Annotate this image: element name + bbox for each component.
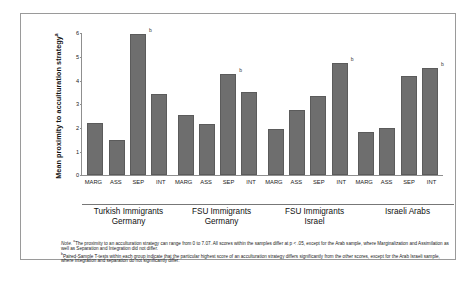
y-axis-title: Mean proximity to acculturation strategy…: [49, 26, 63, 186]
bar-int[interactable]: [422, 68, 438, 175]
bar-ass[interactable]: [109, 140, 125, 175]
bar-slot-marg: [358, 34, 374, 175]
x-label-marg: MARG: [173, 179, 195, 186]
note-text-a: The proximity to an acculturation strate…: [61, 241, 449, 251]
group-name-line2: Israel: [268, 217, 361, 227]
bar-sep[interactable]: [401, 76, 417, 175]
bar-sep[interactable]: [310, 96, 326, 175]
x-label-marg: MARG: [263, 179, 285, 186]
bar-group-2: b: [172, 34, 262, 175]
bar-int[interactable]: [241, 92, 257, 175]
y-tick-1: 1: [69, 150, 79, 156]
bar-slot-sep: b: [130, 34, 146, 175]
group-name-4: Israeli Arabs: [361, 207, 454, 226]
band-names: Turkish ImmigrantsGermanyFSU ImmigrantsG…: [82, 207, 454, 226]
x-label-group-2: MARGASSSEPINT: [172, 177, 262, 198]
y-tick-2: 2: [69, 126, 79, 132]
bar-slot-ass: [199, 34, 215, 175]
x-label-group-4: MARGASSSEPINT: [353, 177, 443, 198]
group-name-line1: Turkish Immigrants: [82, 207, 175, 217]
x-label-ass: ASS: [376, 179, 398, 186]
bar-slot-ass: [109, 34, 125, 175]
bar-slot-int: b: [422, 34, 438, 175]
x-label-group-1: MARGASSSEPINT: [82, 177, 172, 198]
group-name-line1: FSU Immigrants: [268, 207, 361, 217]
bar-marg[interactable]: [178, 115, 194, 175]
bar-slot-sep: b: [220, 34, 236, 175]
note-paragraph-a: Note. aThe proximity to an acculturation…: [61, 239, 453, 251]
bar-slot-marg: [178, 34, 194, 175]
group-name-line1: Israeli Arabs: [361, 207, 454, 217]
bar-groups: bbbb: [82, 34, 443, 175]
band-rule: [82, 204, 454, 205]
group-name-band: Turkish ImmigrantsGermanyFSU ImmigrantsG…: [82, 204, 454, 234]
x-label-group-3: MARGASSSEPINT: [263, 177, 353, 198]
bar-slot-int: [241, 34, 257, 175]
significance-marker: b: [441, 62, 444, 67]
group-name-line1: FSU Immigrants: [175, 207, 268, 217]
figure-page: Mean proximity to acculturation strategy…: [0, 0, 476, 285]
bar-group-4: b: [353, 34, 443, 175]
bar-marg[interactable]: [268, 129, 284, 175]
bar-ass[interactable]: [289, 110, 305, 175]
x-axis-category-labels: MARGASSSEPINTMARGASSSEPINTMARGASSSEPINTM…: [82, 177, 443, 198]
y-tick-0: 0: [69, 173, 79, 179]
x-label-ass: ASS: [105, 179, 127, 186]
bar-sep[interactable]: [130, 34, 146, 175]
x-label-int: INT: [330, 179, 352, 186]
bar-slot-marg: [87, 34, 103, 175]
y-tick-4: 4: [69, 79, 79, 85]
group-name-2: FSU ImmigrantsGermany: [175, 207, 268, 226]
group-name-1: Turkish ImmigrantsGermany: [82, 207, 175, 226]
y-tick-5: 5: [69, 55, 79, 61]
bar-slot-ass: [289, 34, 305, 175]
bar-int[interactable]: [332, 63, 348, 175]
x-label-sep: SEP: [127, 179, 149, 186]
group-name-3: FSU ImmigrantsIsrael: [268, 207, 361, 226]
bar-slot-sep: [401, 34, 417, 175]
bar-group-1: b: [82, 34, 172, 175]
x-label-int: INT: [240, 179, 262, 186]
x-label-int: INT: [150, 179, 172, 186]
note-paragraph-b: bPaired-Sample T-tests within each group…: [61, 252, 453, 264]
x-label-sep: SEP: [398, 179, 420, 186]
bar-marg[interactable]: [358, 132, 374, 175]
bar-sep[interactable]: [220, 74, 236, 175]
bar-ass[interactable]: [199, 124, 215, 175]
bar-int[interactable]: [151, 94, 167, 175]
x-label-ass: ASS: [285, 179, 307, 186]
bar-slot-marg: [268, 34, 284, 175]
plot-area: Mean proximity to acculturation strategy…: [43, 28, 443, 198]
y-axis-title-superscript: a: [53, 33, 59, 36]
bar-ass[interactable]: [379, 128, 395, 175]
significance-marker: b: [149, 28, 152, 33]
x-label-int: INT: [421, 179, 443, 186]
bar-marg[interactable]: [87, 123, 103, 175]
axis-area: 0123456 bbbb: [81, 34, 443, 176]
y-tick-6: 6: [69, 31, 79, 37]
bar-slot-sep: [310, 34, 326, 175]
x-label-ass: ASS: [195, 179, 217, 186]
y-tick-3: 3: [69, 102, 79, 108]
x-label-marg: MARG: [82, 179, 104, 186]
group-name-line2: Germany: [82, 217, 175, 227]
note-text-b: Paired-Sample T-tests within each group …: [61, 253, 440, 263]
group-name-line2: Germany: [175, 217, 268, 227]
x-label-sep: SEP: [308, 179, 330, 186]
y-axis-title-text: Mean proximity to acculturation strategy: [54, 36, 63, 179]
note-label: Note.: [61, 241, 72, 246]
figure-frame: Mean proximity to acculturation strategy…: [20, 13, 456, 260]
bar-slot-int: [151, 34, 167, 175]
x-label-sep: SEP: [218, 179, 240, 186]
bar-group-3: b: [263, 34, 353, 175]
figure-note: Note. aThe proximity to an acculturation…: [61, 239, 453, 264]
bar-slot-int: b: [332, 34, 348, 175]
x-label-marg: MARG: [353, 179, 375, 186]
bar-slot-ass: [379, 34, 395, 175]
